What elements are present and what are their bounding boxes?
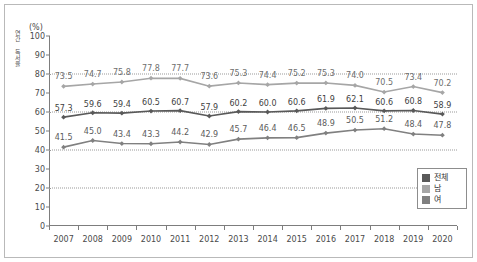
data-label: 45.7 — [230, 125, 248, 134]
series-marker — [119, 80, 124, 85]
x-tick-label: 2018 — [374, 235, 394, 244]
x-tick-label: 2013 — [228, 235, 248, 244]
chart-legend: 전체 남 여 — [417, 168, 467, 209]
series-marker — [61, 145, 66, 150]
data-label: 75.3 — [317, 69, 335, 78]
data-label: 42.9 — [200, 130, 218, 139]
series-marker — [178, 140, 183, 145]
legend-swatch-total — [422, 174, 430, 182]
y-tick-label: 0 — [40, 222, 45, 231]
x-tick-mark — [49, 226, 50, 230]
legend-item-female[interactable]: 여 — [422, 194, 462, 205]
legend-item-total[interactable]: 전체 — [422, 172, 462, 183]
series-marker — [236, 81, 241, 86]
series-marker — [440, 112, 445, 117]
series-marker — [207, 142, 212, 147]
data-label: 57.9 — [200, 103, 218, 112]
series-marker — [411, 108, 416, 113]
data-label: 60.8 — [404, 97, 422, 106]
y-tick-label: 90 — [35, 51, 45, 60]
x-tick-label: 2019 — [403, 235, 423, 244]
legend-swatch-female — [422, 196, 430, 204]
series-lines — [49, 36, 457, 226]
x-tick-label: 2015 — [287, 235, 307, 244]
x-tick-mark — [311, 226, 312, 230]
y-tick-label: 20 — [35, 184, 45, 193]
x-tick-mark — [340, 226, 341, 230]
chart-frame: 연간 독서율 (%) 0102030405060708090100 200720… — [4, 4, 473, 258]
series-marker — [119, 141, 124, 146]
series-marker — [265, 82, 270, 87]
series-marker — [382, 126, 387, 131]
data-label: 51.2 — [375, 115, 393, 124]
x-tick-mark — [78, 226, 79, 230]
y-tick-label: 30 — [35, 165, 45, 174]
data-label: 47.8 — [434, 121, 452, 130]
x-tick-mark — [107, 226, 108, 230]
data-label: 70.5 — [375, 78, 393, 87]
series-marker — [178, 76, 183, 81]
series-marker — [323, 81, 328, 86]
y-tick-label: 70 — [35, 89, 45, 98]
data-label: 59.4 — [113, 100, 131, 109]
y-tick-label: 80 — [35, 70, 45, 79]
data-label: 70.2 — [434, 79, 452, 88]
data-label: 41.5 — [55, 133, 73, 142]
series-marker — [353, 83, 358, 88]
series-marker — [207, 114, 212, 119]
series-marker — [90, 138, 95, 143]
data-label: 77.8 — [142, 64, 160, 73]
series-marker — [265, 135, 270, 140]
series-marker — [323, 131, 328, 136]
series-marker — [440, 90, 445, 95]
x-tick-label: 2011 — [170, 235, 190, 244]
x-tick-label: 2016 — [316, 235, 336, 244]
x-tick-mark — [370, 226, 371, 230]
series-marker — [149, 141, 154, 146]
y-tick-label: 40 — [35, 146, 45, 155]
series-marker — [353, 106, 358, 111]
x-tick-label: 2008 — [83, 235, 103, 244]
data-label: 60.6 — [288, 98, 306, 107]
legend-label-male: 남 — [434, 183, 441, 194]
x-tick-mark — [224, 226, 225, 230]
data-label: 48.4 — [404, 120, 422, 129]
series-marker — [61, 84, 66, 89]
y-tick-label: 50 — [35, 127, 45, 136]
data-label: 73.6 — [200, 72, 218, 81]
legend-item-male[interactable]: 남 — [422, 183, 462, 194]
data-label: 46.4 — [259, 124, 277, 133]
x-tick-mark — [282, 226, 283, 230]
data-label: 62.1 — [346, 95, 364, 104]
x-tick-label: 2012 — [199, 235, 219, 244]
x-tick-mark — [399, 226, 400, 230]
data-label: 74.7 — [84, 70, 102, 79]
y-tick-label: 60 — [35, 108, 45, 117]
x-tick-mark — [195, 226, 196, 230]
data-label: 50.5 — [346, 116, 364, 125]
data-label: 60.7 — [171, 98, 189, 107]
series-marker — [323, 106, 328, 111]
x-tick-label: 2010 — [141, 235, 161, 244]
series-marker — [178, 108, 183, 113]
chart-screenshot: 연간 독서율 (%) 0102030405060708090100 200720… — [0, 0, 477, 262]
x-tick-mark — [253, 226, 254, 230]
data-label: 61.9 — [317, 95, 335, 104]
data-label: 43.3 — [142, 130, 160, 139]
x-tick-label: 2009 — [112, 235, 132, 244]
legend-swatch-male — [422, 185, 430, 193]
series-marker — [236, 137, 241, 142]
data-label: 74.4 — [259, 71, 277, 80]
series-marker — [382, 90, 387, 95]
series-marker — [149, 76, 154, 81]
data-label: 73.4 — [404, 73, 422, 82]
y-tick-label: 10 — [35, 203, 45, 212]
x-tick-label: 2020 — [432, 235, 452, 244]
x-tick-label: 2014 — [257, 235, 277, 244]
data-label: 73.5 — [55, 72, 73, 81]
data-label: 77.7 — [171, 64, 189, 73]
legend-label-total: 전체 — [434, 172, 448, 183]
x-tick-mark — [428, 226, 429, 230]
data-label: 74.0 — [346, 71, 364, 80]
x-tick-mark — [166, 226, 167, 230]
